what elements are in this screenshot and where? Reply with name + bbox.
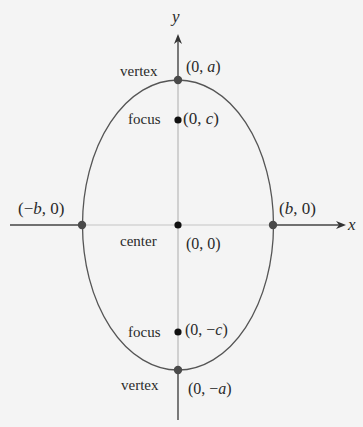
top-vertex-coord: (0, a): [186, 59, 221, 75]
right-covertex-coord: (b, 0): [279, 200, 316, 217]
top-vertex-label: vertex: [120, 64, 157, 79]
top-vertex-dot: [174, 76, 182, 84]
left-covertex-dot: [78, 221, 86, 229]
bottom-vertex-label: vertex: [121, 378, 158, 393]
center-label: center: [120, 234, 157, 249]
upper-focus-coord: (0, c): [183, 110, 219, 127]
lower-focus-label: focus: [128, 325, 161, 340]
upper-focus-dot: [174, 116, 181, 123]
lower-focus-coord: (0, −c): [185, 322, 228, 338]
left-covertex-coord: (−b, 0): [18, 200, 64, 217]
center-coord: (0, 0): [186, 236, 221, 252]
center-dot: [174, 221, 181, 228]
y-axis-label: y: [172, 8, 180, 25]
upper-focus-label: focus: [128, 112, 161, 127]
lower-focus-dot: [174, 328, 181, 335]
bottom-vertex-dot: [174, 366, 182, 374]
right-covertex-dot: [269, 221, 277, 229]
ellipse-diagram: y x vertex (0, a) focus (0, c) center (0…: [0, 0, 363, 427]
x-axis-label: x: [348, 216, 356, 233]
bottom-vertex-coord: (0, −a): [188, 381, 232, 397]
